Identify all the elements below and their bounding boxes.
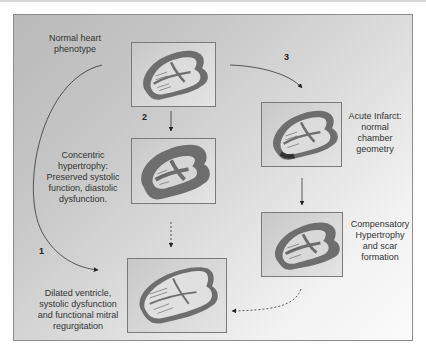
arrow-compensatory-to-dilated <box>232 289 301 311</box>
arrow-path-1 <box>33 65 102 270</box>
arrow-path-3 <box>230 65 302 88</box>
arrows-layer <box>0 0 426 352</box>
